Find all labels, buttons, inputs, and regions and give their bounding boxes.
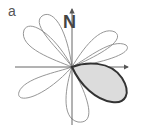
lower-left-lobe — [19, 67, 72, 98]
upper-left-lobe-b — [23, 26, 72, 67]
upper-right-lobe-1 — [72, 31, 118, 67]
rosette-diagram — [0, 0, 158, 130]
